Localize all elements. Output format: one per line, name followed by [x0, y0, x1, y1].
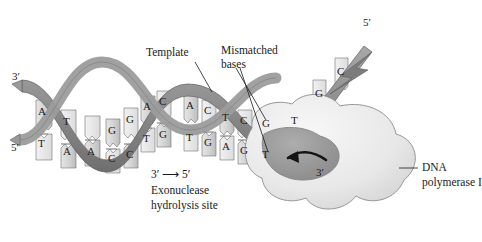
mismatched-base-top: G [262, 117, 270, 129]
base-letter: C [159, 95, 166, 107]
template-label: Template [146, 46, 189, 59]
base-letter: A [87, 145, 95, 157]
base-letter: G [108, 124, 116, 136]
base-letter: A [38, 105, 46, 117]
base-letter: T [186, 131, 193, 143]
base-letter: C [108, 152, 115, 164]
dna-polymerase-label-line2: polymerase I [422, 176, 482, 189]
base-letter: A [222, 140, 230, 152]
base-letter: A [143, 100, 151, 112]
base-letter: T [291, 114, 298, 126]
base-letter: C [204, 104, 211, 116]
mismatched-base-bottom: T [262, 148, 269, 160]
base-letter: G [159, 128, 167, 140]
base-letter: G [315, 87, 323, 99]
base-letter: A [186, 99, 194, 111]
active-site-3prime-label: 3′ [316, 166, 324, 178]
base-letter: T [63, 115, 70, 127]
exonuclease-label-line2: hydrolysis site [151, 199, 218, 212]
base-letter: G [240, 144, 248, 156]
base-letter: C [240, 114, 247, 126]
dna-polymerase-label-line1: DNA [422, 161, 447, 174]
base-letter: G [204, 136, 212, 148]
base-letter: C [126, 148, 133, 160]
exonuclease-direction-label: 3′ ⟶ 5′ [151, 168, 190, 181]
left-3prime-label: 3′ [12, 70, 20, 82]
base-letter: G [126, 113, 134, 125]
base-letter: T [222, 111, 229, 123]
mismatched-bases-label-line2: bases [221, 58, 246, 71]
left-5prime-label: 5′ [11, 141, 19, 153]
base-letter: C [337, 65, 344, 77]
exonuclease-label-line1: Exonuclease [151, 184, 209, 197]
base-letter: A [63, 145, 71, 157]
base-letter: T [38, 137, 45, 149]
base-letter: T [143, 132, 150, 144]
mismatched-bases-label-line1: Mismatched [221, 44, 278, 57]
right-5prime-label: 5′ [363, 16, 371, 28]
dna-polymerase-blob [245, 94, 415, 209]
